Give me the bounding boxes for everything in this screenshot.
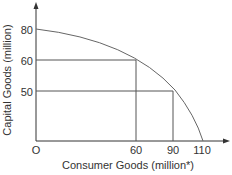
origin-label: O bbox=[32, 144, 41, 156]
ppf-chart: 80 60 50 O 60 90 110 Consumer Goods (mil… bbox=[0, 0, 232, 175]
x-tick-60: 60 bbox=[130, 144, 142, 156]
x-tick-110: 110 bbox=[193, 144, 211, 156]
y-axis-title: Capital Goods (million) bbox=[1, 24, 13, 135]
ppf-curve bbox=[36, 29, 203, 141]
y-tick-50: 50 bbox=[21, 86, 33, 98]
y-axis-arrow-icon bbox=[34, 2, 39, 9]
x-axis-arrow-icon bbox=[223, 139, 230, 144]
x-tick-90: 90 bbox=[167, 144, 179, 156]
y-tick-80: 80 bbox=[21, 24, 33, 36]
y-tick-60: 60 bbox=[21, 55, 33, 67]
x-axis-title: Consumer Goods (million*) bbox=[62, 159, 194, 171]
